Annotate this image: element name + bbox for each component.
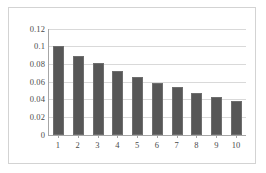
x-axis: 12345678910 [48, 138, 246, 152]
bar[interactable] [172, 87, 183, 135]
x-tick-label: 10 [226, 138, 246, 152]
x-tick-label: 7 [167, 138, 187, 152]
y-tick-label: 0.06 [11, 78, 45, 87]
bar[interactable] [231, 101, 242, 135]
x-tick-label: 9 [206, 138, 226, 152]
y-tick-label: 0.02 [11, 113, 45, 122]
bar-slot [108, 29, 128, 135]
y-tick-label: 0 [11, 131, 45, 140]
y-tick-label: 0.08 [11, 60, 45, 69]
x-tick-label: 3 [88, 138, 108, 152]
bar[interactable] [112, 71, 123, 135]
bar[interactable] [152, 83, 163, 135]
bar[interactable] [211, 97, 222, 135]
plot-area [48, 29, 246, 136]
bar[interactable] [191, 93, 202, 135]
y-tick-label: 0.12 [11, 25, 45, 34]
y-axis: 00.020.040.060.080.10.12 [11, 8, 45, 163]
bar-series [49, 29, 246, 135]
bar-slot [88, 29, 108, 135]
y-tick-label: 0.1 [11, 42, 45, 51]
bar[interactable] [53, 46, 64, 135]
bar-slot [69, 29, 89, 135]
bar-slot [207, 29, 227, 135]
bar-slot [167, 29, 187, 135]
x-tick-label: 8 [187, 138, 207, 152]
bar-slot [49, 29, 69, 135]
x-tick-label: 2 [68, 138, 88, 152]
bar-slot [187, 29, 207, 135]
x-tick-label: 4 [107, 138, 127, 152]
bar[interactable] [73, 56, 84, 136]
x-tick-label: 5 [127, 138, 147, 152]
bar[interactable] [132, 77, 143, 135]
x-tick-label: 6 [147, 138, 167, 152]
x-tick-label: 1 [48, 138, 68, 152]
bar[interactable] [93, 63, 104, 135]
y-tick-label: 0.04 [11, 95, 45, 104]
chart-plot-container: 00.020.040.060.080.10.12 12345678910 [9, 8, 255, 163]
bar-slot [148, 29, 168, 135]
bar-slot [226, 29, 246, 135]
bar-slot [128, 29, 148, 135]
chart-frame: 00.020.040.060.080.10.12 12345678910 [8, 7, 256, 164]
